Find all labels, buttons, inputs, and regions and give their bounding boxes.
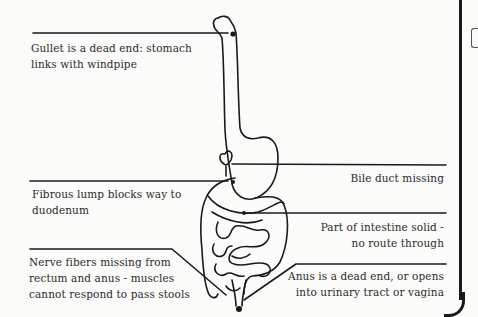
page-border: [459, 0, 462, 300]
label-fibrous-lump: Fibrous lump blocks way to duodenum: [32, 186, 181, 218]
gullet-marker: [230, 31, 235, 36]
intestine-marker: [242, 211, 246, 215]
esophagus: [214, 16, 278, 199]
leader-bile-duct: [232, 164, 446, 165]
rectum: [232, 280, 246, 306]
small-intestine: [216, 222, 270, 276]
gallbladder: [220, 151, 232, 165]
anus-marker: [236, 306, 242, 312]
label-intestine-solid: Part of intestine solid - no route throu…: [321, 219, 444, 251]
label-anus: Anus is a dead end, or opens into urinar…: [288, 268, 444, 300]
label-gullet: Gullet is a dead end: stomach links with…: [31, 40, 192, 72]
label-nerve-fibers: Nerve fibers missing from rectum and anu…: [29, 254, 190, 302]
label-bile-duct: Bile duct missing: [350, 170, 444, 186]
duodenum-marker: [231, 180, 235, 184]
adjacent-page-bracket: [471, 28, 478, 48]
